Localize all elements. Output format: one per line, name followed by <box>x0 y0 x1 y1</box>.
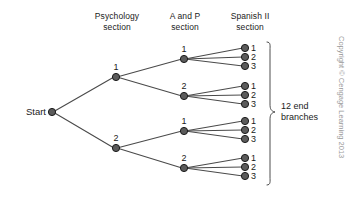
label-aandp-2-1: 1 <box>177 117 191 126</box>
nodes <box>48 44 248 179</box>
edge-l2b-leaf2 <box>185 95 243 96</box>
end-branches-label: 12 end branches <box>281 101 327 123</box>
node-leaf-5 <box>241 91 248 98</box>
node-aandp-2-2 <box>180 164 187 171</box>
node-psychology-2 <box>112 144 119 151</box>
node-leaf-6 <box>241 100 248 107</box>
label-aandp-1-2: 2 <box>177 82 191 91</box>
edge-l2c-leaf2 <box>185 130 243 131</box>
edge-l2b-leaf3 <box>185 96 243 104</box>
node-leaf-3 <box>241 62 248 69</box>
column-header-psychology: Psychology section <box>84 11 150 32</box>
edge-l2a-leaf3 <box>185 59 243 66</box>
label-leaf-9: 3 <box>251 135 265 144</box>
start-label: Start <box>8 107 46 117</box>
edge-l2d-leaf1 <box>185 158 243 168</box>
label-aandp-2-2: 2 <box>177 154 191 163</box>
label-leaf-3: 3 <box>251 62 265 71</box>
node-start <box>48 108 55 115</box>
label-leaf-6: 3 <box>251 100 265 109</box>
label-psychology-2: 2 <box>109 134 123 143</box>
edge-start-l1b <box>53 112 114 148</box>
end-branches-brace <box>267 42 275 185</box>
edges-start-to-level1 <box>53 77 114 148</box>
node-psychology-1 <box>112 73 119 80</box>
edge-start-l1a <box>53 77 114 112</box>
tree-diagram-figure: Psychology section A and P section Spani… <box>0 0 355 198</box>
edge-l2d-leaf3 <box>185 168 243 176</box>
edge-l2c-leaf1 <box>185 121 243 131</box>
node-aandp-1-2 <box>180 92 187 99</box>
node-leaf-8 <box>241 126 248 133</box>
edges-level1-to-level2 <box>117 59 182 168</box>
copyright-notice: Copyright © Cengage Learning 2013 <box>337 36 345 158</box>
node-aandp-2-1 <box>180 127 187 134</box>
node-leaf-9 <box>241 135 248 142</box>
edge-l1a-l2a <box>117 59 182 77</box>
label-psychology-1: 1 <box>109 63 123 72</box>
edges-level2-to-leaves <box>185 48 243 176</box>
edge-l1b-l2d <box>117 148 182 168</box>
edge-l2b-leaf1 <box>185 86 243 96</box>
node-leaf-2 <box>241 53 248 60</box>
label-leaf-12: 3 <box>251 172 265 181</box>
node-leaf-4 <box>241 82 248 89</box>
edge-l2c-leaf3 <box>185 131 243 139</box>
node-leaf-11 <box>241 163 248 170</box>
node-aandp-1-1 <box>180 55 187 62</box>
label-aandp-1-1: 1 <box>177 45 191 54</box>
node-leaf-1 <box>241 44 248 51</box>
column-header-a-and-p: A and P section <box>156 11 214 32</box>
edge-l1a-l2b <box>117 77 182 96</box>
edge-l2d-leaf2 <box>185 167 243 168</box>
node-leaf-7 <box>241 117 248 124</box>
column-header-spanish-ii: Spanish II section <box>218 11 282 32</box>
node-leaf-12 <box>241 172 248 179</box>
edge-l1b-l2c <box>117 131 182 148</box>
node-leaf-10 <box>241 154 248 161</box>
